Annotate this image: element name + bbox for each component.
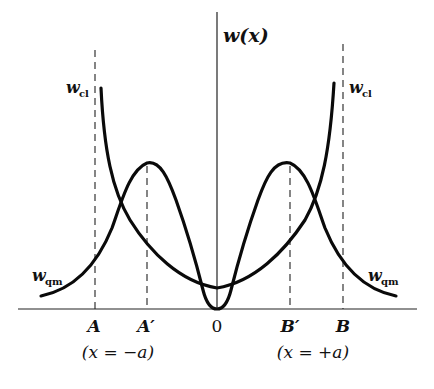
tick-label-origin: 0: [212, 316, 223, 336]
tick-label-a-prime: A′: [135, 316, 155, 336]
tick-label-a: A: [85, 316, 100, 336]
quantum-label-left: w qm: [32, 266, 63, 287]
probability-density-diagram: w(x) w cl w cl w qm w qm A A′ 0 B′ B (x …: [0, 0, 434, 389]
tick-label-b: B: [335, 316, 350, 336]
quantum-label-right: w qm: [368, 266, 399, 287]
svg-text:qm: qm: [45, 276, 63, 287]
classical-label-right: w cl: [349, 78, 372, 99]
right-position-annotation: (x = +a): [277, 342, 349, 362]
diagram-canvas: w(x) w cl w cl w qm w qm A A′ 0 B′ B (x …: [0, 0, 434, 389]
svg-text:cl: cl: [362, 88, 372, 99]
svg-text:cl: cl: [79, 88, 89, 99]
classical-label-left: w cl: [66, 78, 89, 99]
y-axis-label: w(x): [223, 24, 269, 46]
left-position-annotation: (x = −a): [82, 342, 154, 362]
svg-text:qm: qm: [381, 276, 399, 287]
tick-label-b-prime: B′: [280, 316, 300, 336]
